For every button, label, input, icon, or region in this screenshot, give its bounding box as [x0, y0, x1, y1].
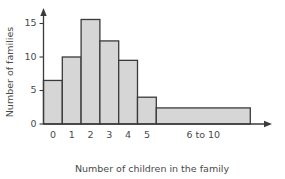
y-tick-group: 051015	[24, 17, 43, 129]
bar	[44, 80, 63, 124]
bar	[138, 97, 157, 124]
x-axis-arrowhead	[264, 121, 272, 127]
x-tick-label: 6 to 10	[186, 129, 220, 140]
x-tick-label: 3	[106, 129, 112, 140]
x-tick-label: 1	[69, 129, 75, 140]
y-tick-label: 10	[24, 51, 36, 62]
x-tick-label: 0	[50, 129, 56, 140]
x-tick-label: 2	[87, 129, 93, 140]
y-tick-label: 15	[24, 17, 36, 28]
histogram-chart: 051015 0123456 to 10 Number of children …	[0, 0, 285, 179]
x-axis-title: Number of children in the family	[75, 163, 229, 174]
bar	[100, 41, 119, 124]
x-tick-group: 0123456 to 10	[50, 129, 220, 140]
chart-canvas: 051015 0123456 to 10 Number of children …	[0, 0, 285, 179]
y-tick-label: 0	[30, 118, 36, 129]
bar	[62, 57, 81, 124]
y-tick-label: 5	[30, 84, 36, 95]
y-axis-title: Number of families	[4, 27, 15, 118]
bars-group	[44, 19, 251, 124]
bar	[81, 19, 100, 124]
x-tick-label: 4	[125, 129, 131, 140]
x-tick-label: 5	[144, 129, 150, 140]
bar	[156, 108, 250, 124]
bar	[119, 60, 138, 124]
y-axis-arrowhead	[40, 8, 46, 16]
